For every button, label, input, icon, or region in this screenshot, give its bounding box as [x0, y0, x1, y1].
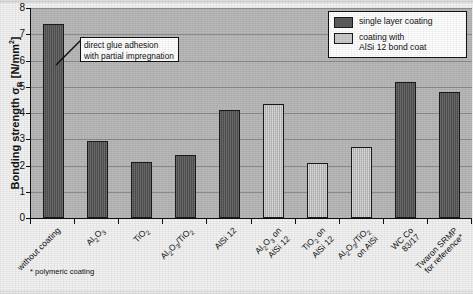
y-axis-tick-label: 5 — [8, 81, 25, 92]
bar — [395, 82, 416, 219]
footnote: * polymeric coating — [30, 267, 94, 276]
y-axis-tick-mark — [26, 34, 30, 35]
legend-item-bond-coat: coating with AlSi 12 bond coat — [334, 32, 461, 52]
x-axis-label: Al2O3/TiO2 — [159, 226, 196, 263]
legend-label-line-1: single layer coating — [359, 16, 433, 26]
x-axis-label: Al2O3 — [85, 226, 108, 249]
y-axis-tick-label: 7 — [8, 28, 25, 39]
x-axis-tick-mark — [251, 219, 252, 224]
legend-label-line-2: AlSi 12 bond coat — [359, 42, 426, 52]
callout-line-1: direct glue adhesion — [84, 40, 175, 51]
page-edge-top — [0, 0, 473, 3]
legend: single layer coating coating with AlSi 1… — [328, 11, 467, 58]
x-axis-label: Al2O3 onAlSi 12 — [253, 226, 291, 264]
legend-label-line-1: coating with — [359, 32, 426, 42]
y-axis-tick-label: 6 — [8, 55, 25, 66]
page-edge-bottom — [0, 290, 473, 294]
x-axis-tick-mark — [383, 219, 384, 224]
legend-item-single-layer-coating: single layer coating — [334, 16, 461, 28]
y-axis-tick-mark — [26, 166, 30, 167]
bar — [131, 162, 152, 218]
y-axis-tick-mark — [26, 139, 30, 140]
y-axis-tick-mark — [26, 113, 30, 114]
x-axis-tick-mark — [427, 219, 428, 224]
x-axis-label: Twaron SRMPfor reference* — [414, 226, 465, 277]
y-axis-tick-mark — [26, 192, 30, 193]
x-axis-tick-mark — [30, 219, 31, 224]
legend-swatch-dark-icon — [334, 17, 353, 28]
bar — [439, 92, 460, 218]
y-axis-tick-mark — [26, 61, 30, 62]
y-axis-tick-label: 2 — [8, 160, 25, 171]
x-axis-tick-mark — [74, 219, 75, 224]
x-axis-label: AlSi 12 — [213, 226, 238, 251]
x-axis-tick-mark — [339, 219, 340, 224]
legend-label-single-layer-coating: single layer coating — [359, 16, 433, 26]
bar — [307, 163, 328, 218]
legend-label-bond-coat: coating with AlSi 12 bond coat — [359, 32, 426, 52]
bar — [219, 110, 240, 218]
y-axis-tick-label: 8 — [8, 2, 25, 13]
y-axis-tick-label: 0 — [8, 212, 25, 223]
x-axis-tick-mark — [118, 219, 119, 224]
y-axis-tick-label: 4 — [8, 107, 25, 118]
x-axis-tick-mark — [471, 219, 472, 224]
y-axis-tick-mark — [26, 87, 30, 88]
x-axis-label: TiO2 onAlSi 12 — [300, 226, 335, 261]
x-axis-label: without coating — [16, 226, 62, 272]
x-axis-tick-mark — [295, 219, 296, 224]
gridline — [31, 8, 472, 9]
legend-swatch-light-icon — [334, 33, 353, 44]
x-axis-tick-mark — [162, 219, 163, 224]
y-axis-tick-mark — [26, 8, 30, 9]
bar — [87, 141, 108, 218]
bar-chart: Bonding strength σB [N/mm2] 012345678 wi… — [0, 0, 473, 294]
callout-line-2: with partial impregnation — [84, 51, 175, 62]
y-axis-unit-exponent: 2 — [8, 40, 15, 44]
x-axis-label: WC Co83/17 — [389, 226, 421, 258]
y-axis-tick-label: 3 — [8, 133, 25, 144]
x-axis-label: Al2O3/TiO2on AlSi — [336, 226, 379, 269]
x-axis-tick-mark — [206, 219, 207, 224]
y-axis-tick-label: 1 — [8, 186, 25, 197]
callout-annotation: direct glue adhesion with partial impreg… — [80, 37, 179, 62]
bar — [175, 155, 196, 218]
bar — [263, 104, 284, 218]
bar — [351, 147, 372, 218]
x-axis-label: TiO2 — [132, 226, 152, 246]
